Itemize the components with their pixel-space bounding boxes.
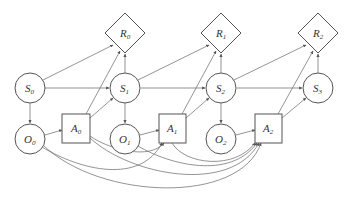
node-o1: O1 bbox=[110, 124, 140, 154]
edge-a1-s2 bbox=[186, 98, 209, 118]
node-s2: S2 bbox=[206, 73, 236, 103]
edge-o1-a2 bbox=[138, 143, 257, 166]
edge-a0-s1 bbox=[90, 98, 113, 118]
node-s1: S1 bbox=[110, 73, 140, 103]
edge-s2-r2 bbox=[234, 45, 306, 80]
edge-s0-r0 bbox=[43, 45, 113, 80]
edge-o0-a0 bbox=[45, 130, 62, 135]
node-s0: S0 bbox=[15, 73, 45, 103]
node-r0: R0 bbox=[105, 13, 145, 53]
edge-s1-r1 bbox=[138, 45, 209, 80]
node-r1: R1 bbox=[201, 13, 241, 53]
edge-o1-a1 bbox=[140, 130, 159, 135]
influence-diagram: R0 R1 R2 S0 S1 S2 S3 O0 O1 O2 A0 bbox=[0, 0, 344, 204]
node-o2: O2 bbox=[206, 124, 236, 154]
edge-o2-a2 bbox=[236, 130, 255, 135]
node-a2: A2 bbox=[255, 114, 282, 143]
node-o0: O0 bbox=[15, 124, 45, 154]
node-a0: A0 bbox=[62, 114, 90, 143]
edge-o0-a1 bbox=[42, 143, 162, 170]
node-s3: S3 bbox=[303, 73, 333, 103]
node-a1: A1 bbox=[159, 114, 186, 143]
node-r2: R2 bbox=[298, 13, 338, 53]
